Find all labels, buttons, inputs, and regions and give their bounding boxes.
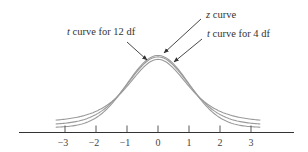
x-tick-label: 3 <box>249 137 254 148</box>
x-tick-label: −3 <box>58 137 69 148</box>
annotation-t4-curve: t curve for 4 df <box>174 28 270 62</box>
t-vs-z-curves-diagram: −3−2−10123 z curve t curve for 12 df t c… <box>0 0 308 152</box>
t4-curve-arrow <box>174 39 202 62</box>
x-axis-ticks: −3−2−10123 <box>58 126 254 148</box>
t12-curve-line <box>56 57 261 124</box>
annotation-t12-curve: t curve for 12 df <box>67 26 147 60</box>
t4-curve-label: t curve for 4 df <box>207 28 270 39</box>
x-tick-label: 2 <box>218 137 223 148</box>
x-tick-label: −2 <box>89 137 100 148</box>
z-curve-line <box>56 55 261 127</box>
t4-curve-line <box>56 59 261 120</box>
t12-curve-label: t curve for 12 df <box>67 26 136 37</box>
z-curve-arrow <box>164 19 201 53</box>
z-curve-label: z curve <box>205 9 236 20</box>
density-curves <box>56 55 261 127</box>
x-tick-label: 0 <box>156 137 161 148</box>
t12-curve-arrow <box>127 42 147 60</box>
x-tick-label: 1 <box>187 137 192 148</box>
x-tick-label: −1 <box>120 137 131 148</box>
